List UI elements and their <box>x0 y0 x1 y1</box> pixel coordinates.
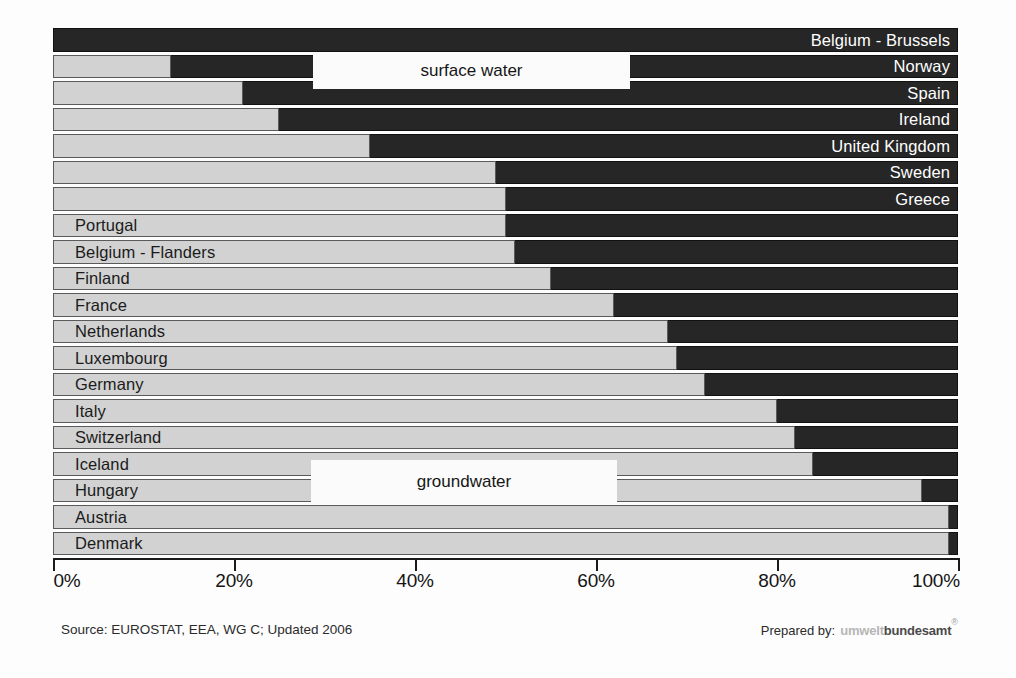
bar-row: United Kingdom <box>53 134 958 158</box>
prepared-by: Prepared by: umweltbundesamt® <box>761 622 958 638</box>
registered-trademark-icon: ® <box>951 617 958 627</box>
legend-groundwater-label: groundwater <box>417 472 512 492</box>
bar-segment-groundwater <box>53 426 795 450</box>
bar-row-label: United Kingdom <box>831 136 950 155</box>
bar-row: Finland <box>53 267 958 291</box>
bar-row: Germany <box>53 373 958 397</box>
legend-groundwater: groundwater <box>311 460 617 504</box>
bar-segment-groundwater <box>53 505 949 529</box>
bar-row-label: Portugal <box>75 216 137 235</box>
bar-segment-groundwater <box>53 532 949 556</box>
bar-row-label: Netherlands <box>75 322 165 341</box>
bar-row: Switzerland <box>53 426 958 450</box>
bar-row-label: Belgium - Flanders <box>75 242 215 261</box>
bar-row-label: Norway <box>893 57 950 76</box>
bar-row-label: Germany <box>75 375 144 394</box>
prepared-by-label: Prepared by: <box>761 623 835 638</box>
bar-row-label: Belgium - Brussels <box>811 30 950 49</box>
bar-row-label: Italy <box>75 401 106 420</box>
bar-row-label: Austria <box>75 507 127 526</box>
bar-row-label: Hungary <box>75 481 138 500</box>
x-axis-tick-label: 100% <box>912 570 960 592</box>
chart-footer: Source: EUROSTAT, EEA, WG C; Updated 200… <box>0 616 1016 656</box>
bar-segment-groundwater <box>53 399 777 423</box>
bar-row: Italy <box>53 399 958 423</box>
bar-segment-groundwater <box>53 55 171 79</box>
bar-row-label: Iceland <box>75 454 129 473</box>
bar-row: Portugal <box>53 214 958 238</box>
bar-row-label: Spain <box>907 83 950 102</box>
legend-surface-water-label: surface water <box>420 61 522 81</box>
bar-row: Denmark <box>53 532 958 556</box>
bar-row: Greece <box>53 187 958 211</box>
chart-page: Belgium - BrusselsNorwaySpainIrelandUnit… <box>0 0 1016 678</box>
bar-row-label: Switzerland <box>75 428 161 447</box>
bar-row: Sweden <box>53 161 958 185</box>
bar-row-label: Greece <box>895 189 950 208</box>
bar-segment-groundwater <box>53 108 279 132</box>
source-note: Source: EUROSTAT, EEA, WG C; Updated 200… <box>61 622 352 637</box>
x-axis-tick-labels: 0%20%40%60%80%100% <box>0 570 1016 600</box>
bar-row-label: Finland <box>75 269 130 288</box>
bar-segment-groundwater <box>53 161 496 185</box>
bar-row: Austria <box>53 505 958 529</box>
x-axis-tick-label: 40% <box>396 570 433 592</box>
bar-row: Luxembourg <box>53 346 958 370</box>
bar-row-label: Luxembourg <box>75 348 168 367</box>
brand-logo: umweltbundesamt® <box>840 622 958 638</box>
brand-umwelt: umwelt <box>840 623 884 638</box>
x-axis-tick-label: 80% <box>758 570 795 592</box>
bar-row-label: Sweden <box>890 163 950 182</box>
bar-segment-groundwater <box>53 81 243 105</box>
bar-row: France <box>53 293 958 317</box>
brand-bundesamt: bundesamt <box>884 623 952 638</box>
bar-row: Belgium - Flanders <box>53 240 958 264</box>
x-axis-tick-label: 60% <box>577 570 614 592</box>
bar-segment-groundwater <box>53 293 614 317</box>
bar-segment-groundwater <box>53 187 506 211</box>
x-axis-tick-label: 0% <box>53 570 80 592</box>
bar-segment-groundwater <box>53 134 370 158</box>
legend-surface-water: surface water <box>313 52 630 89</box>
bar-row: Netherlands <box>53 320 958 344</box>
bar-row: Ireland <box>53 108 958 132</box>
bar-segment-groundwater <box>53 373 705 397</box>
x-axis-line <box>53 558 958 560</box>
bar-row: Belgium - Brussels <box>53 28 958 52</box>
x-axis-tick-label: 20% <box>215 570 252 592</box>
bar-row-label: Ireland <box>899 110 950 129</box>
bar-row-label: France <box>75 295 127 314</box>
bar-row-label: Denmark <box>75 534 143 553</box>
